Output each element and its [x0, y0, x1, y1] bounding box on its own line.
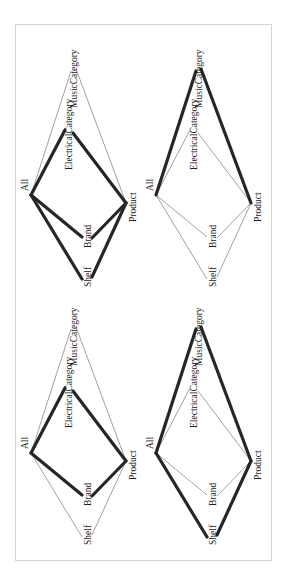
edge-electricalcategory-product — [198, 133, 251, 203]
edge-brand-product — [217, 461, 251, 496]
edge-all-shelf — [156, 453, 207, 537]
panel-bottom-left: AllElectricalCategoryMusicCategoryProduc… — [20, 307, 138, 545]
edge-shelf-product — [217, 203, 251, 277]
edge-all-shelf — [156, 195, 207, 279]
node-label-musiccategory: MusicCategory — [69, 49, 79, 108]
edge-brand-product — [92, 461, 126, 496]
edge-electricalcategory-product — [73, 133, 126, 203]
node-label-product: Product — [253, 192, 263, 222]
node-label-electricalcategory: ElectricalCategory — [189, 99, 199, 170]
edge-all-brand — [156, 195, 207, 237]
node-label-brand: Brand — [83, 225, 93, 248]
panel-top-right: AllElectricalCategoryMusicCategoryProduc… — [145, 49, 263, 287]
node-label-brand: Brand — [208, 225, 218, 248]
edge-all-brand — [31, 195, 82, 237]
node-label-shelf: Shelf — [208, 524, 218, 545]
panel-top-left: AllElectricalCategoryMusicCategoryProduc… — [20, 49, 138, 287]
edge-all-brand — [156, 453, 207, 495]
node-label-shelf: Shelf — [208, 266, 218, 287]
node-label-shelf: Shelf — [83, 266, 93, 287]
edge-musiccategory-product — [201, 327, 251, 461]
node-label-product: Product — [253, 450, 263, 480]
edge-musiccategory-product — [76, 69, 126, 203]
node-label-electricalcategory: ElectricalCategory — [189, 357, 199, 428]
node-label-all: All — [20, 179, 30, 192]
edge-shelf-product — [92, 461, 126, 535]
edge-all-shelf — [31, 195, 82, 279]
node-label-musiccategory: MusicCategory — [194, 307, 204, 366]
node-label-all: All — [145, 179, 155, 192]
edge-all-electricalcategory — [31, 130, 65, 195]
edge-electricalcategory-product — [73, 391, 126, 461]
node-label-musiccategory: MusicCategory — [194, 49, 204, 108]
edge-all-brand — [31, 453, 82, 495]
lattice-diagrams: AllElectricalCategoryMusicCategoryProduc… — [0, 0, 289, 582]
node-label-electricalcategory: ElectricalCategory — [64, 99, 74, 170]
edge-brand-product — [217, 203, 251, 238]
edge-all-electricalcategory — [31, 388, 65, 453]
panel-bottom-right: AllElectricalCategoryMusicCategoryProduc… — [145, 307, 263, 545]
edge-musiccategory-product — [201, 69, 251, 203]
node-label-brand: Brand — [83, 483, 93, 506]
node-label-electricalcategory: ElectricalCategory — [64, 357, 74, 428]
edge-musiccategory-product — [76, 327, 126, 461]
node-label-musiccategory: MusicCategory — [69, 307, 79, 366]
edge-shelf-product — [217, 461, 251, 535]
node-label-product: Product — [128, 450, 138, 480]
node-label-all: All — [145, 437, 155, 450]
node-label-shelf: Shelf — [83, 524, 93, 545]
node-label-all: All — [20, 437, 30, 450]
node-label-brand: Brand — [208, 483, 218, 506]
edge-electricalcategory-product — [198, 391, 251, 461]
edge-shelf-product — [92, 203, 126, 277]
node-label-product: Product — [128, 192, 138, 222]
edge-all-shelf — [31, 453, 82, 537]
edge-brand-product — [92, 203, 126, 238]
